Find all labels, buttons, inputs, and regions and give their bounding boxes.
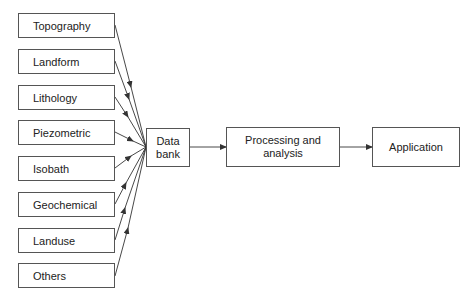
source-label: Isobath — [33, 163, 69, 175]
source-label: Landuse — [33, 235, 75, 247]
source-label: Others — [33, 270, 66, 282]
application-box: Application — [372, 127, 460, 167]
source-label: Piezometric — [33, 127, 90, 139]
source-box-landform: Landform — [18, 49, 115, 74]
data-bank-label-line1: Data — [156, 135, 179, 148]
source-label: Geochemical — [33, 199, 97, 211]
source-box-isobath: Isobath — [18, 156, 115, 181]
data-bank-label-line2: bank — [156, 148, 180, 161]
source-box-landuse: Landuse — [18, 228, 115, 253]
processing-label-line1: Processing and — [245, 134, 321, 147]
processing-box: Processing and analysis — [226, 127, 340, 167]
source-box-piezometric: Piezometric — [18, 120, 115, 145]
source-box-geochemical: Geochemical — [18, 192, 115, 217]
source-box-others: Others — [18, 263, 115, 288]
source-box-topography: Topography — [18, 13, 115, 38]
source-label: Landform — [33, 56, 79, 68]
source-label: Lithology — [33, 92, 77, 104]
source-label: Topography — [33, 20, 91, 32]
processing-label-line2: analysis — [263, 147, 303, 160]
source-box-lithology: Lithology — [18, 85, 115, 110]
data-bank-box: Data bank — [146, 128, 190, 167]
application-label: Application — [389, 141, 443, 154]
